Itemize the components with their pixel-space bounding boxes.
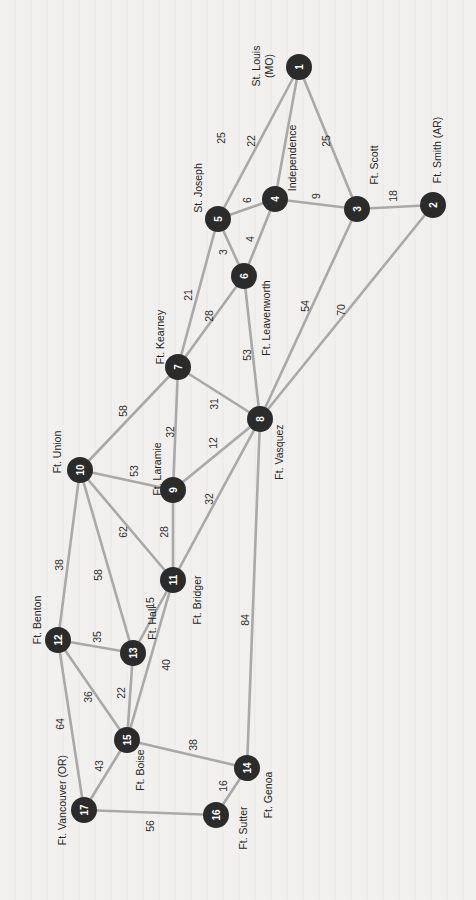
node-number: 10 (75, 464, 86, 476)
node-number: 3 (352, 206, 363, 212)
edge-10-12 (58, 470, 80, 640)
node-number: 17 (79, 804, 90, 816)
edge-weight-label: 22 (115, 687, 127, 699)
city-label: Ft. Boise (134, 749, 146, 791)
city-label: Ft. Benton (31, 596, 43, 645)
node-10: 10 (67, 457, 93, 483)
edge-weight-label: 4 (244, 236, 256, 242)
city-label-line: Ft. Scott (368, 145, 380, 184)
edge-weight-label: 21 (182, 289, 194, 301)
edge-weight-label: 64 (54, 718, 66, 730)
city-label: Ft. Laramie (151, 442, 163, 495)
edge-weight-label: 54 (299, 300, 311, 312)
node-7: 7 (165, 354, 191, 380)
edge-weight-label: 3 (217, 249, 229, 255)
node-number: 7 (173, 364, 184, 370)
edge-8-14 (247, 419, 260, 768)
city-label: St. Joseph (192, 163, 204, 213)
city-label: Ft. Leavenworth (260, 280, 272, 355)
node-6: 6 (231, 263, 257, 289)
edge-weight-label: 12 (207, 437, 219, 449)
city-label: Ft. Union (51, 431, 63, 474)
city-labels-layer: St. Louis(MO)Ft. Smith (AR)Ft. ScottInde… (31, 46, 443, 850)
node-1: 1 (286, 54, 312, 80)
city-label-line: Ft. Benton (31, 596, 43, 645)
edge-weight-label: 84 (239, 614, 251, 626)
node-4: 4 (262, 186, 288, 212)
node-number: 6 (239, 273, 250, 279)
city-label: St. Louis(MO) (250, 46, 274, 87)
edge-weight-label: 58 (117, 405, 129, 417)
city-label: Ft. Vasquez (273, 424, 285, 479)
edge-weight-label: 28 (203, 310, 215, 322)
edge-weight-label: 22 (245, 135, 257, 147)
city-label-line: Ft. Union (51, 431, 63, 474)
node-12: 12 (45, 627, 71, 653)
city-label-line: Ft. Sutter (237, 806, 249, 850)
node-17: 17 (71, 797, 97, 823)
city-label-line: Ft. Laramie (151, 442, 163, 495)
node-number: 12 (53, 634, 64, 646)
city-label-line: Ft. Smith (AR) (431, 117, 443, 184)
edge-weight-label: 6 (241, 197, 253, 203)
node-number: 14 (242, 762, 253, 774)
node-number: 16 (211, 809, 222, 821)
edge-weight-label: 31 (208, 398, 220, 410)
edge-17-16 (84, 810, 216, 815)
city-label-line: Independence (286, 125, 298, 192)
edge-weight-label: 35 (91, 631, 103, 643)
city-label: Ft. Kearney (154, 309, 166, 364)
city-label: Ft. Vancouver (OR) (56, 755, 68, 845)
city-label-line: St. Joseph (192, 163, 204, 213)
edge-weight-label: 62 (117, 526, 129, 538)
edge-weight-label: 28 (158, 526, 170, 538)
city-label-line: Ft. Kearney (154, 309, 166, 364)
city-label-line: Ft. Hall (146, 606, 158, 639)
city-label: Ft. Genoa (262, 772, 274, 819)
city-label: Ft. Smith (AR) (431, 117, 443, 184)
city-label: Ft. Bridger (191, 575, 203, 625)
edge-weight-label: 70 (335, 304, 347, 316)
node-number: 13 (128, 647, 139, 659)
edge-weight-label: 38 (187, 739, 199, 751)
node-8: 8 (247, 406, 273, 432)
city-label-line: Ft. Boise (134, 749, 146, 791)
edge-weight-label: 56 (144, 820, 156, 832)
city-label-line: Ft. Vancouver (OR) (56, 755, 68, 845)
city-label-line: St. Louis (250, 46, 262, 87)
edge-weight-label: 9 (310, 193, 322, 199)
city-label-line: Ft. Leavenworth (260, 280, 272, 355)
node-9: 9 (160, 477, 186, 503)
node-number: 5 (213, 216, 224, 222)
edge-6-8 (244, 276, 260, 419)
edge-weight-label: 32 (203, 493, 215, 505)
city-label-line: Ft. Genoa (262, 772, 274, 819)
edge-10-13 (80, 470, 133, 653)
edge-weight-label: 43 (93, 760, 105, 772)
node-number: 11 (168, 574, 179, 585)
node-5: 5 (205, 206, 231, 232)
edge-weight-label: 18 (387, 190, 399, 202)
edge-weight-label: 58 (92, 569, 104, 581)
node-15: 15 (114, 727, 140, 753)
node-number: 2 (428, 202, 439, 208)
node-number: 15 (122, 734, 133, 746)
edge-weight-label: 16 (217, 780, 229, 792)
node-13: 13 (120, 640, 146, 666)
city-label-line: Ft. Vasquez (273, 424, 285, 479)
node-number: 1 (294, 64, 305, 70)
node-14: 14 (234, 755, 260, 781)
edge-weight-label: 53 (128, 465, 140, 477)
city-label-line: Ft. Bridger (191, 575, 203, 625)
node-number: 4 (270, 196, 281, 202)
edge-8-9 (173, 419, 260, 490)
node-16: 16 (203, 802, 229, 828)
node-number: 8 (255, 416, 266, 422)
city-label: Ft. Sutter (237, 806, 249, 850)
node-11: 11 (160, 567, 186, 593)
edge-weight-label: 38 (53, 559, 65, 571)
node-3: 3 (344, 196, 370, 222)
edge-weight-label: 36 (82, 691, 94, 703)
edge-weight-label: 32 (164, 426, 176, 438)
edge-weight-label: 25 (215, 132, 227, 144)
